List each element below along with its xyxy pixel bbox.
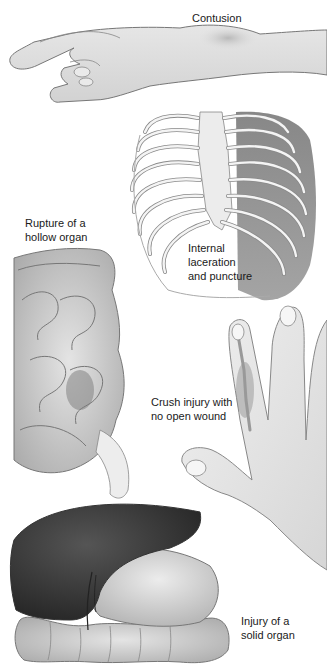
label-crush-injury-line-2: no open wound [151, 409, 232, 423]
arm-illustration [10, 25, 327, 102]
label-internal-laceration-line-3: and puncture [188, 269, 252, 283]
label-internal-laceration-line-1: Internal [188, 241, 252, 255]
label-hollow-organ: Rupture of a hollow organ [25, 216, 87, 244]
label-internal-laceration-line-2: laceration [188, 255, 252, 269]
intestines-illustration [14, 248, 129, 498]
label-crush-injury-line-1: Crush injury with [151, 395, 232, 409]
label-hollow-organ-line-2: hollow organ [25, 230, 87, 244]
label-solid-organ-line-2: solid organ [241, 628, 295, 642]
label-crush-injury: Crush injury with no open wound [151, 395, 232, 423]
label-hollow-organ-line-1: Rupture of a [25, 216, 87, 230]
label-contusion-line-1: Contusion [192, 11, 242, 25]
label-internal-laceration: Internal laceration and puncture [188, 241, 252, 283]
label-solid-organ-line-1: Injury of a [241, 614, 295, 628]
injury-illustration [0, 0, 327, 671]
label-solid-organ: Injury of a solid organ [241, 614, 295, 642]
liver-colon-illustration [10, 504, 229, 663]
label-contusion: Contusion [192, 11, 242, 25]
hand-illustration [182, 306, 327, 570]
